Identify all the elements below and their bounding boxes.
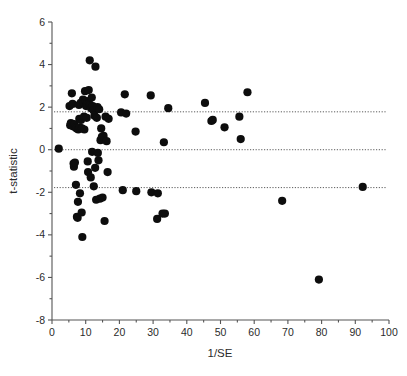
data-point <box>100 217 108 225</box>
y-tick-label: 6 <box>39 16 45 28</box>
y-tick-label: -2 <box>36 186 45 198</box>
x-tick-label: 90 <box>349 326 361 338</box>
data-point <box>121 90 129 98</box>
data-point <box>86 56 94 64</box>
x-tick-label: 100 <box>380 326 398 338</box>
data-point <box>80 125 88 133</box>
x-tick-label: 20 <box>114 326 126 338</box>
data-point <box>68 89 76 97</box>
data-point <box>237 135 245 143</box>
data-point <box>160 138 168 146</box>
data-point <box>154 189 162 197</box>
x-tick-label: 0 <box>49 326 55 338</box>
data-point <box>84 157 92 165</box>
data-point <box>243 88 251 96</box>
data-point <box>55 145 63 153</box>
funnel-plot-figure: 6420-2-4-6-8 0102030405060708090100 1/SE… <box>0 0 407 376</box>
y-tick-label: -4 <box>36 228 45 240</box>
data-point <box>98 194 106 202</box>
data-point <box>235 113 243 121</box>
data-point <box>119 186 127 194</box>
data-point <box>359 183 367 191</box>
data-point <box>88 93 96 101</box>
data-point <box>105 115 113 123</box>
data-point <box>315 275 323 283</box>
data-point <box>94 149 102 157</box>
data-point <box>91 164 99 172</box>
y-tick-label: -8 <box>36 314 45 326</box>
y-axis-title: t-statistic <box>7 148 19 194</box>
x-tick-label: 80 <box>316 326 328 338</box>
data-point <box>93 114 101 122</box>
data-point <box>87 173 95 181</box>
data-point <box>278 197 286 205</box>
data-point <box>78 233 86 241</box>
y-tick-label: 4 <box>39 58 45 70</box>
data-point <box>78 208 86 216</box>
data-point <box>74 198 82 206</box>
data-point <box>95 105 103 113</box>
data-point <box>71 158 79 166</box>
data-point <box>83 114 91 122</box>
x-tick-label: 30 <box>147 326 159 338</box>
y-tick-label: 2 <box>39 101 45 113</box>
x-tick-label: 10 <box>80 326 92 338</box>
x-tick-label: 40 <box>181 326 193 338</box>
data-point <box>164 104 172 112</box>
data-point <box>94 156 102 164</box>
scatter-plot-canvas: 6420-2-4-6-8 0102030405060708090100 1/SE… <box>0 0 407 376</box>
data-point <box>102 137 110 145</box>
data-point <box>201 99 209 107</box>
data-point <box>131 128 139 136</box>
x-axis-title: 1/SE <box>208 347 233 359</box>
data-point <box>85 86 93 94</box>
data-point <box>97 124 105 132</box>
data-point <box>220 123 228 131</box>
data-point <box>209 116 217 124</box>
data-point <box>72 181 80 189</box>
x-tick-label: 60 <box>248 326 260 338</box>
data-point <box>104 168 112 176</box>
y-tick-label: 0 <box>39 143 45 155</box>
x-tick-label: 70 <box>282 326 294 338</box>
x-tick-label: 50 <box>215 326 227 338</box>
data-point <box>122 109 130 117</box>
y-tick-label: -6 <box>36 271 45 283</box>
data-point <box>132 187 140 195</box>
data-point <box>76 189 84 197</box>
data-point <box>90 182 98 190</box>
data-point <box>161 209 169 217</box>
data-point <box>91 63 99 71</box>
data-point <box>147 91 155 99</box>
